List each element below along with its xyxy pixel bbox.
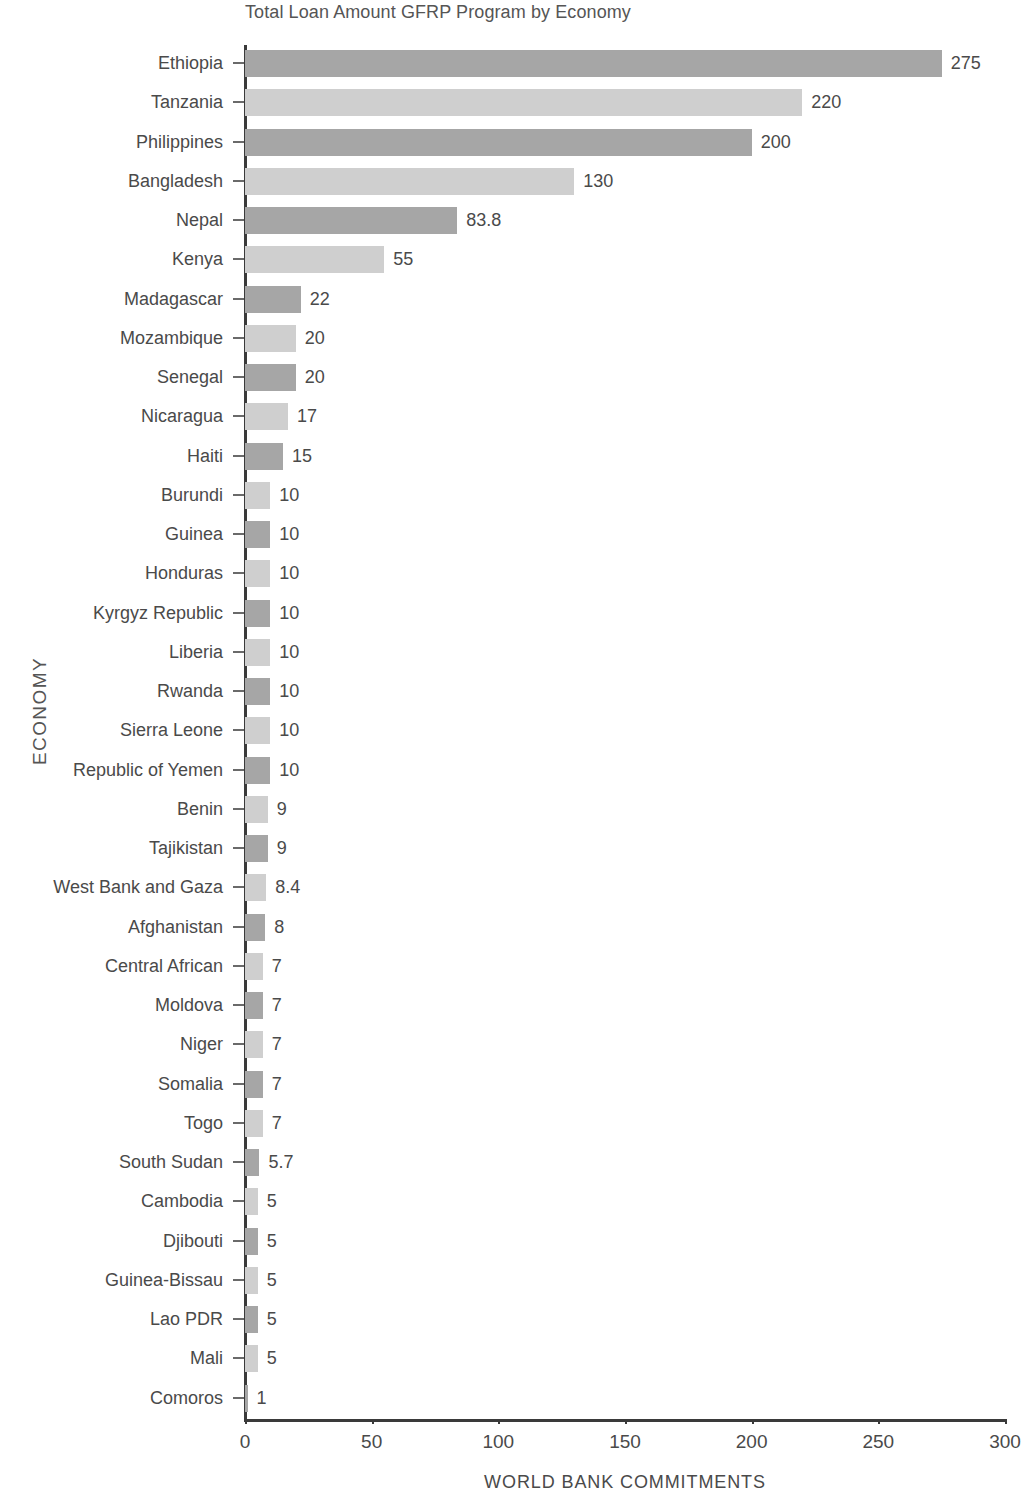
bar-row: Tanzania220 [245,84,1005,121]
bar-value-label: 15 [292,444,312,469]
category-tick [233,376,244,378]
bar [245,1149,259,1176]
bar [245,129,752,156]
bar-value-label: 22 [310,287,330,312]
bar-row: Djibouti5 [245,1223,1005,1260]
bar [245,168,574,195]
bar-value-label: 5 [267,1229,277,1254]
bar-value-label: 5 [267,1346,277,1371]
bar-value-label: 5 [267,1268,277,1293]
bar-row: Guinea-Bissau5 [245,1262,1005,1299]
bar-row: Bangladesh130 [245,163,1005,200]
bar [245,482,270,509]
bar-row: South Sudan5.7 [245,1144,1005,1181]
category-tick [233,415,244,417]
category-label: Mali [0,1345,223,1372]
category-tick [233,298,244,300]
bar-chart: Total Loan Amount GFRP Program by Econom… [0,0,1032,1508]
category-tick [233,337,244,339]
bar [245,207,457,234]
category-label: Tajikistan [0,835,223,862]
bar-value-label: 10 [279,601,299,626]
category-tick [233,494,244,496]
bar-value-label: 10 [279,522,299,547]
x-axis-tick [245,1419,247,1424]
category-tick [233,1083,244,1085]
category-label: Rwanda [0,678,223,705]
bar-value-label: 220 [811,90,841,115]
bar [245,1188,258,1215]
bar-value-label: 9 [277,797,287,822]
bar-value-label: 130 [583,169,613,194]
category-tick [233,258,244,260]
category-tick [233,1397,244,1399]
x-axis-tick-label: 150 [585,1431,665,1453]
bar-row: Tajikistan9 [245,830,1005,867]
category-tick [233,1043,244,1045]
bar [245,757,270,784]
bar-value-label: 10 [279,758,299,783]
category-label: Bangladesh [0,168,223,195]
category-label: Somalia [0,1071,223,1098]
category-label: Guinea-Bissau [0,1267,223,1294]
bar-row: Senegal20 [245,359,1005,396]
bar [245,1345,258,1372]
bar [245,521,270,548]
category-tick [233,572,244,574]
bar-value-label: 7 [272,954,282,979]
x-axis-tick [752,1419,754,1424]
bar-row: Guinea10 [245,516,1005,553]
bar [245,364,296,391]
category-label: Cambodia [0,1188,223,1215]
category-tick [233,729,244,731]
bar [245,1267,258,1294]
category-tick [233,886,244,888]
category-label: Kyrgyz Republic [0,600,223,627]
bar [245,1110,263,1137]
bar-value-label: 10 [279,718,299,743]
bar [245,1306,258,1333]
category-tick [233,808,244,810]
bar-row: Honduras10 [245,555,1005,592]
x-axis-tick-label: 50 [332,1431,412,1453]
x-axis-tick [372,1419,374,1424]
x-axis-tick-label: 300 [965,1431,1032,1453]
bar [245,914,265,941]
category-tick [233,62,244,64]
category-label: Mozambique [0,325,223,352]
bar-row: Niger7 [245,1026,1005,1063]
category-label: Tanzania [0,89,223,116]
bar [245,325,296,352]
bar-row: Kyrgyz Republic10 [245,595,1005,632]
bar [245,874,266,901]
category-label: Afghanistan [0,914,223,941]
bar-value-label: 5 [267,1307,277,1332]
bar [245,835,268,862]
bar-row: Nepal83.8 [245,202,1005,239]
bar [245,89,802,116]
category-label: Comoros [0,1385,223,1412]
bar-row: Ethiopia275 [245,45,1005,82]
category-label: West Bank and Gaza [0,874,223,901]
chart-title: Total Loan Amount GFRP Program by Econom… [245,2,631,23]
category-tick [233,1200,244,1202]
x-axis-tick-label: 200 [712,1431,792,1453]
bar [245,1071,263,1098]
x-axis-tick-label: 0 [205,1431,285,1453]
bar [245,286,301,313]
bar [245,717,270,744]
bar-value-label: 8 [274,915,284,940]
bar-row: Moldova7 [245,987,1005,1024]
category-tick [233,101,244,103]
x-axis-tick [1005,1419,1007,1424]
category-label: Moldova [0,992,223,1019]
bar-value-label: 10 [279,483,299,508]
category-tick [233,1122,244,1124]
bar [245,796,268,823]
bar-value-label: 17 [297,404,317,429]
bar-row: Madagascar22 [245,281,1005,318]
category-label: Niger [0,1031,223,1058]
category-tick [233,847,244,849]
bar-row: Somalia7 [245,1066,1005,1103]
bar [245,443,283,470]
